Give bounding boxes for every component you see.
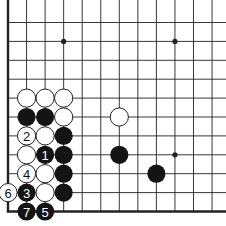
black-stone — [36, 108, 54, 126]
stone-body — [36, 89, 54, 107]
black-stone — [55, 127, 73, 145]
white-stone — [36, 184, 54, 202]
white-stone: 2 — [17, 127, 35, 145]
black-stone — [55, 165, 73, 183]
stone-body — [55, 89, 73, 107]
white-stone — [110, 108, 128, 126]
stone-body — [55, 127, 73, 145]
stone-body — [55, 165, 73, 183]
white-stone — [17, 89, 35, 107]
stone-body — [55, 146, 73, 164]
stone-body — [110, 108, 128, 126]
white-stone — [36, 165, 54, 183]
stone-body — [55, 108, 73, 126]
white-stone: 4 — [17, 165, 35, 183]
black-stone — [55, 146, 73, 164]
stone-body — [36, 127, 54, 145]
black-stone: 1 — [36, 146, 54, 164]
stone-body — [36, 184, 54, 202]
star-point-icon — [172, 39, 177, 44]
stone-body — [17, 89, 35, 107]
black-stone: 5 — [36, 202, 54, 220]
move-number-label: 7 — [23, 205, 30, 220]
white-stone — [55, 108, 73, 126]
stone-body — [110, 146, 128, 164]
stone-body — [55, 184, 73, 202]
black-stone — [147, 165, 165, 183]
move-number-label: 6 — [4, 186, 11, 201]
black-stone — [55, 184, 73, 202]
stone-body — [36, 165, 54, 183]
white-stone — [17, 146, 35, 164]
move-number-label: 3 — [23, 186, 30, 201]
star-point-icon — [61, 39, 66, 44]
white-stone — [36, 127, 54, 145]
go-board: 2146375 — [0, 0, 226, 226]
stone-body — [36, 108, 54, 126]
move-number-label: 4 — [23, 167, 30, 182]
black-stone — [110, 146, 128, 164]
white-stone: 6 — [0, 184, 17, 202]
move-number-label: 1 — [41, 148, 48, 163]
black-stone: 3 — [17, 184, 35, 202]
move-number-label: 2 — [23, 129, 30, 144]
stone-body — [17, 108, 35, 126]
stone-body — [147, 165, 165, 183]
move-number-label: 5 — [41, 205, 48, 220]
star-point-icon — [172, 152, 177, 157]
stone-body — [17, 146, 35, 164]
black-stone — [17, 108, 35, 126]
black-stone: 7 — [17, 202, 35, 220]
white-stone — [36, 89, 54, 107]
white-stone — [55, 89, 73, 107]
